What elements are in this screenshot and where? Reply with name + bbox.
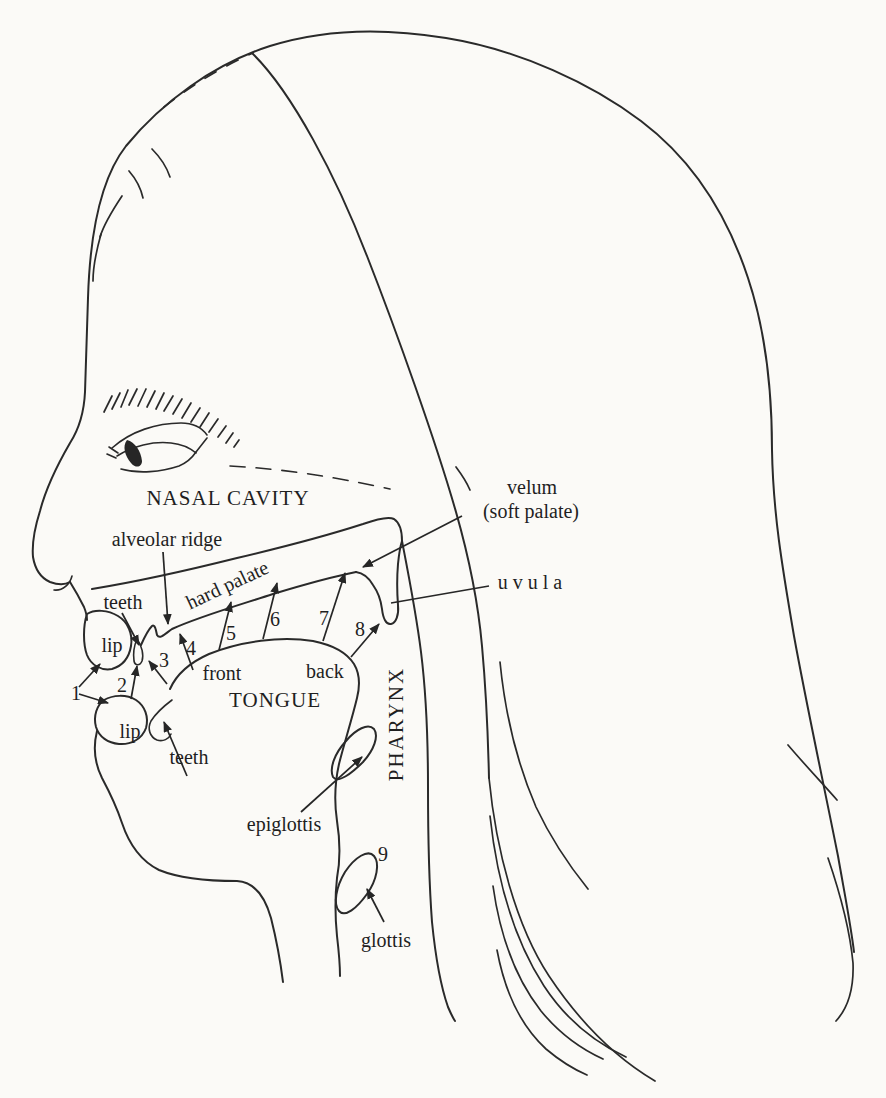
nasal-cavity-label: NASAL CAVITY bbox=[146, 486, 309, 510]
eye-outer-corner bbox=[196, 438, 207, 452]
lower-teeth-label: teeth bbox=[170, 746, 209, 768]
place-marker-5: 5 bbox=[226, 622, 236, 644]
marker1-lower-lip-arrow bbox=[79, 694, 108, 703]
upper-lip-label: lip bbox=[101, 634, 122, 657]
eyelash-stroke-1 bbox=[109, 447, 118, 453]
velum-label: velum bbox=[507, 476, 557, 498]
front-hairline bbox=[252, 53, 489, 778]
marker2-arrow bbox=[131, 666, 137, 699]
upper-teeth-label: teeth bbox=[104, 591, 143, 613]
philtrum-line bbox=[70, 582, 87, 620]
marker1-upper-lip-arrow bbox=[79, 664, 100, 687]
place-marker-2: 2 bbox=[117, 674, 127, 696]
tongue-front-label: front bbox=[203, 662, 242, 684]
glottis-label: glottis bbox=[361, 929, 411, 952]
tongue-label: TONGUE bbox=[229, 688, 321, 712]
pharynx-label: PHARYNX bbox=[384, 667, 408, 781]
tongue-back-label: back bbox=[306, 660, 344, 682]
vocal-tract-figure: NASAL CAVITY alveolar ridge hard palate … bbox=[0, 0, 886, 1098]
soft-palate-label: (soft palate) bbox=[483, 500, 579, 523]
alveolar-ridge-arrow bbox=[163, 552, 168, 624]
place-marker-9: 9 bbox=[378, 843, 388, 865]
vocal-tract-diagram-page: NASAL CAVITY alveolar ridge hard palate … bbox=[0, 0, 886, 1098]
uvula-label: u v u l a bbox=[498, 571, 563, 593]
place-marker-7: 7 bbox=[319, 607, 329, 629]
velum-arrow bbox=[363, 516, 462, 567]
hair-strands bbox=[489, 662, 853, 1081]
velum-uvula-outline bbox=[356, 541, 402, 624]
place-marker-1: 1 bbox=[71, 682, 81, 704]
hairline-strand-short bbox=[456, 467, 470, 490]
crown-dashed-hairline bbox=[164, 53, 253, 107]
glottis-arrow bbox=[367, 889, 384, 922]
eyelash-stroke-2 bbox=[107, 454, 116, 458]
place-marker-6: 6 bbox=[270, 608, 280, 630]
iris-pupil bbox=[124, 440, 142, 467]
place-marker-3: 3 bbox=[159, 649, 169, 671]
eye bbox=[107, 423, 207, 472]
place-marker-4: 4 bbox=[186, 637, 196, 659]
place-marker-8: 8 bbox=[355, 618, 365, 640]
epiglottis-label: epiglottis bbox=[247, 813, 322, 836]
temple-hair-strokes bbox=[93, 149, 170, 281]
chin-neck-outline bbox=[95, 731, 283, 982]
glottis-outline bbox=[336, 853, 377, 913]
hard-palate-label: hard palate bbox=[182, 556, 272, 614]
alveolar-ridge-label: alveolar ridge bbox=[112, 528, 223, 551]
face-profile-nose bbox=[33, 298, 88, 584]
lower-lip-label: lip bbox=[119, 720, 140, 743]
